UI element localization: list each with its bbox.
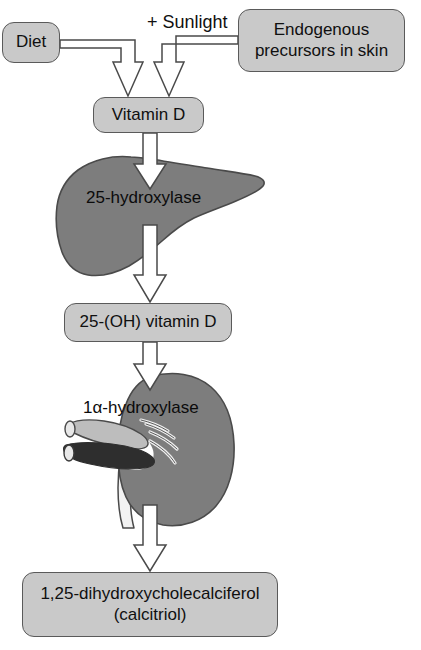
vitamin-d-pathway-diagram: Diet Endogenous precursors in skin Vitam… bbox=[0, 0, 421, 650]
arrow-kidney-to-calcitriol bbox=[134, 505, 166, 571]
node-25-oh-vitamin-d: 25-(OH) vitamin D bbox=[64, 303, 232, 342]
node-endogenous-line-2: precursors in skin bbox=[255, 41, 388, 60]
node-calcitriol-line-2: (calcitriol) bbox=[114, 605, 187, 624]
liver-enzyme-label: 25-hydroxylase bbox=[86, 188, 201, 208]
arrow-25oh-vitamin-d-to-kidney bbox=[134, 342, 166, 390]
node-25-oh-vitamin-d-label: 25-(OH) vitamin D bbox=[65, 312, 231, 332]
arrow-endogenous-to-vitamin-d bbox=[154, 36, 238, 96]
arrow-liver-to-25oh-vitamin-d bbox=[134, 225, 166, 302]
node-diet: Diet bbox=[2, 22, 60, 63]
kidney-enzyme-label: 1α-hydroxylase bbox=[83, 398, 199, 418]
node-calcitriol-label: 1,25-dihydroxycholecalciferol (calcitrio… bbox=[23, 584, 277, 625]
node-calcitriol-line-1: 1,25-dihydroxycholecalciferol bbox=[40, 584, 259, 603]
node-calcitriol: 1,25-dihydroxycholecalciferol (calcitrio… bbox=[22, 572, 278, 637]
node-diet-label: Diet bbox=[3, 32, 59, 52]
node-vitamin-d: Vitamin D bbox=[93, 97, 204, 133]
node-endogenous-precursors-label: Endogenous precursors in skin bbox=[239, 20, 404, 61]
sunlight-annotation: + Sunlight bbox=[147, 12, 228, 33]
arrow-vitamin-d-to-liver bbox=[134, 133, 166, 189]
node-endogenous-precursors: Endogenous precursors in skin bbox=[238, 9, 405, 72]
node-endogenous-line-1: Endogenous bbox=[274, 20, 369, 39]
arrow-diet-to-vitamin-d bbox=[60, 40, 143, 96]
node-vitamin-d-label: Vitamin D bbox=[94, 105, 203, 125]
